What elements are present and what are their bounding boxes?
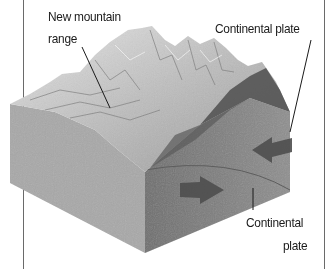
label-new-mountain-range-line2: range	[48, 31, 77, 47]
label-new-mountain-range-line1: New mountain	[48, 9, 121, 25]
label-continental-plate-top: Continental plate	[215, 21, 300, 37]
label-continental-plate-bottom-line1: Continental	[246, 215, 303, 231]
label-continental-plate-bottom-line2: plate	[283, 238, 307, 254]
leader-line-plate-top	[290, 40, 311, 132]
